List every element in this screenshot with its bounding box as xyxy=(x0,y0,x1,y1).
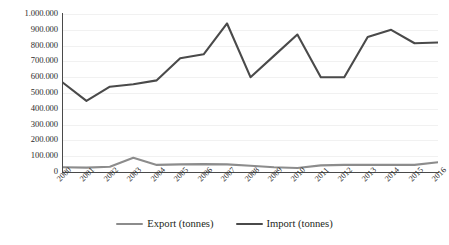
x-axis-tick-label: 2014 xyxy=(383,165,401,183)
x-axis-tick-label: 2012 xyxy=(336,165,354,183)
legend-swatch-icon xyxy=(236,223,263,226)
x-axis-labels: 2000200120022003200420052006200720082009… xyxy=(0,0,449,245)
x-axis-tick-label: 2005 xyxy=(172,165,190,183)
legend-item[interactable]: Export (tonnes) xyxy=(116,218,213,230)
x-axis-tick-label: 2003 xyxy=(125,165,143,183)
x-axis-tick-label: 2006 xyxy=(196,165,214,183)
x-axis-tick-label: 2013 xyxy=(360,165,378,183)
x-axis-tick-label: 2008 xyxy=(243,165,261,183)
legend-swatch-icon xyxy=(116,223,143,226)
x-axis-tick-label: 2002 xyxy=(102,165,120,183)
legend-item[interactable]: Import (tonnes) xyxy=(236,218,333,230)
x-axis-tick-label: 2010 xyxy=(289,165,307,183)
x-axis-tick-label: 2011 xyxy=(313,166,331,184)
x-axis-tick-label: 2001 xyxy=(78,165,96,183)
x-axis-tick-label: 2009 xyxy=(266,165,284,183)
legend-label: Export (tonnes) xyxy=(147,218,213,230)
x-axis-tick-label: 2015 xyxy=(407,165,425,183)
x-axis-tick-label: 2004 xyxy=(149,165,167,183)
x-axis-tick-label: 2007 xyxy=(219,165,237,183)
x-axis-tick-label: 2016 xyxy=(430,165,448,183)
legend-label: Import (tonnes) xyxy=(267,218,333,230)
line-chart: 0100.000200.000300.000400.000500.000600.… xyxy=(0,0,449,245)
x-axis-tick-label: 2000 xyxy=(55,165,73,183)
chart-legend: Export (tonnes)Import (tonnes) xyxy=(0,218,449,230)
